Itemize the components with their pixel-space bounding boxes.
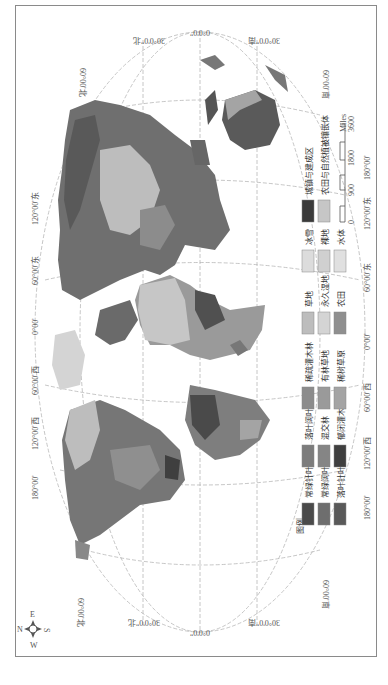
svg-text:S: S <box>42 628 51 632</box>
svg-text:30°0'0"南: 30°0'0"南 <box>248 618 280 628</box>
svg-text:60°00'南: 60°00'南 <box>321 580 331 609</box>
svg-text:N: N <box>17 625 23 634</box>
svg-text:城镇与建成区: 城镇与建成区 <box>304 147 314 195</box>
svg-text:60°00'北: 60°00'北 <box>76 598 85 627</box>
legend-swatch <box>302 250 314 272</box>
svg-text:30°0'0"北: 30°0'0"北 <box>128 618 160 627</box>
svg-text:180°00': 180°00' <box>363 495 372 520</box>
legend-swatch <box>302 200 314 222</box>
svg-text:30°0'0"南: 30°0'0"南 <box>248 36 280 46</box>
svg-text:混交林: 混交林 <box>320 416 330 440</box>
legend-swatch <box>334 445 346 467</box>
svg-text:稀树草原: 稀树草原 <box>336 350 346 382</box>
continent-north-america <box>62 400 185 560</box>
svg-text:900: 900 <box>347 184 356 196</box>
svg-text:120°00'西: 120°00'西 <box>31 417 40 450</box>
continent-europe-greenland <box>52 300 138 390</box>
lon-labels-left: 180°00' 120°00'西 60°00'西 0°00' 60°00'东 1… <box>30 192 40 500</box>
legend-swatch <box>302 312 314 334</box>
svg-text:0°00': 0°00' <box>31 318 40 335</box>
svg-text:稀疏灌木林: 稀疏灌木林 <box>304 342 314 382</box>
legend-swatch <box>302 445 314 467</box>
lat-labels-top: 30°0'0"北 0°0'0" 30°0'0"南 <box>133 28 280 46</box>
svg-text:冰雪: 冰雪 <box>304 229 314 245</box>
legend-swatch <box>334 503 346 525</box>
svg-text:120°00'东: 120°00'东 <box>30 192 40 225</box>
svg-text:0°0'0": 0°0'0" <box>190 628 210 637</box>
svg-text:180°00': 180°00' <box>363 155 372 180</box>
svg-text:1800: 1800 <box>347 150 356 166</box>
svg-text:60°00'北: 60°00'北 <box>78 68 87 97</box>
legend-swatch <box>334 312 346 334</box>
svg-text:60°00'东: 60°00'东 <box>362 263 372 292</box>
svg-text:草地: 草地 <box>304 291 314 307</box>
continent-japan-indonesia <box>190 55 225 165</box>
map-canvas: 180°00' 120°00'西 60°00'西 0°00' 60°00'东 1… <box>0 0 388 685</box>
continent-eurasia <box>58 100 230 300</box>
legend-swatch <box>318 503 330 525</box>
svg-text:180°00': 180°00' <box>31 475 40 500</box>
svg-text:0°00': 0°00' <box>363 333 372 350</box>
lon-labels-right: 180°00' 120°00'西 60°00'西 0°00' 60°00'东 1… <box>362 155 372 520</box>
legend-swatch <box>334 387 346 409</box>
svg-text:0°0'0": 0°0'0" <box>190 28 210 37</box>
compass-rose: N S E W <box>17 610 51 650</box>
continent-australia <box>222 65 288 150</box>
svg-text:永久湿地: 永久湿地 <box>320 275 330 307</box>
legend-swatch <box>302 387 314 409</box>
lat-labels-bottom: 30°0'0"北 0°0'0" 30°0'0"南 <box>128 618 280 637</box>
svg-text:有林草地: 有林草地 <box>320 350 330 382</box>
svg-text:E: E <box>30 610 35 619</box>
svg-text:0: 0 <box>347 220 356 224</box>
legend-swatch <box>318 445 330 467</box>
svg-text:60°00'西: 60°00'西 <box>31 366 40 395</box>
svg-text:30°0'0"北: 30°0'0"北 <box>133 36 165 45</box>
svg-text:Miles: Miles <box>339 114 348 132</box>
svg-text:120°00'东: 120°00'东 <box>362 197 372 230</box>
svg-text:120°00'西: 120°00'西 <box>363 437 372 470</box>
legend-swatch <box>334 250 346 272</box>
legend-swatch <box>318 312 330 334</box>
legend-swatch <box>318 387 330 409</box>
svg-text:W: W <box>30 641 38 650</box>
scale-bar: 0 900 1800 3600 Miles <box>339 114 356 224</box>
legend-swatch <box>318 200 330 222</box>
svg-text:60°00'西: 60°00'西 <box>363 383 372 412</box>
legend-swatch <box>302 503 314 525</box>
svg-text:农田: 农田 <box>336 291 346 307</box>
svg-text:3600: 3600 <box>347 116 356 132</box>
svg-text:裸地: 裸地 <box>320 229 330 245</box>
legend-swatch <box>318 250 330 272</box>
svg-text:农田与自然植被镶嵌体: 农田与自然植被镶嵌体 <box>320 115 330 195</box>
svg-text:60°00'南: 60°00'南 <box>321 70 331 99</box>
svg-text:水体: 水体 <box>336 229 346 245</box>
svg-text:60°00'东: 60°00'东 <box>30 256 40 285</box>
